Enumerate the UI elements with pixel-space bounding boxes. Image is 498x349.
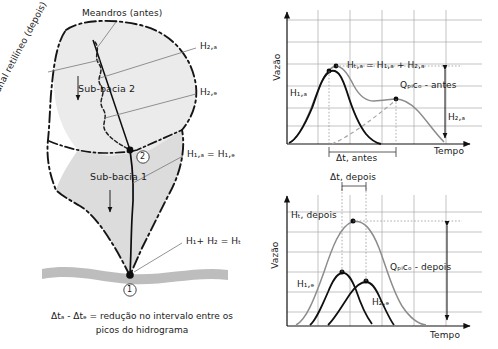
ylabel-depois: Vazão	[270, 242, 280, 269]
dt-depois-bracket	[342, 182, 366, 191]
curve-h1d	[310, 273, 372, 325]
label-curve-h2d: H₂,ₔ	[372, 297, 389, 307]
label-qpico-depois: Qₚᵢᴄₒ - depois	[390, 262, 451, 272]
chart-depois	[0, 0, 498, 349]
xlabel-depois: Tempo	[430, 330, 460, 340]
curve-total-depois	[296, 222, 426, 325]
label-total-depois: Hₜ, depois	[291, 210, 337, 220]
label-dt-depois: Δt, depois	[330, 172, 376, 182]
label-curve-h1d: H₁,ₔ	[297, 279, 314, 289]
